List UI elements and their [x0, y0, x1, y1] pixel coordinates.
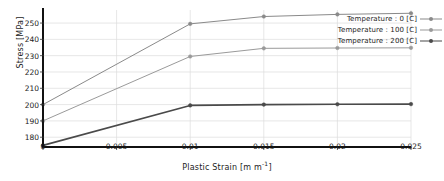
x-tick-label: 0.01: [182, 142, 199, 151]
legend-color-swatch: [420, 36, 442, 45]
x-axis-title: Plastic Strain [m m-1]: [43, 163, 411, 172]
x-tick-label: 0.02: [329, 142, 346, 151]
legend-marker-icon: [429, 39, 433, 43]
stress-plastic-strain-chart: Stress [MPa] 180190200210220230240250 00…: [0, 0, 444, 181]
legend-item-label: Temperature : 0 [C]: [347, 15, 417, 23]
legend-color-swatch: [420, 25, 442, 34]
legend-item-label: Temperature : 100 [C]: [338, 26, 417, 34]
legend-item-label: Temperature : 200 [C]: [338, 37, 417, 45]
legend-marker-icon: [429, 17, 433, 21]
x-axis-title-tail: ]: [268, 163, 271, 172]
x-tick-label: 0.005: [106, 142, 127, 151]
x-tick-label: 0: [41, 142, 46, 151]
legend-item[interactable]: Temperature : 0 [C]: [318, 13, 442, 24]
x-axis-title-base: Plastic Strain [m m: [182, 163, 262, 172]
legend-item[interactable]: Temperature : 200 [C]: [318, 35, 442, 46]
legend-item[interactable]: Temperature : 100 [C]: [318, 24, 442, 35]
legend-color-swatch: [420, 14, 442, 23]
legend: Temperature : 0 [C]Temperature : 100 [C]…: [318, 13, 442, 46]
x-tick-label: 0.025: [400, 142, 421, 151]
legend-marker-icon: [429, 28, 433, 32]
x-tick-label: 0.015: [253, 142, 274, 151]
